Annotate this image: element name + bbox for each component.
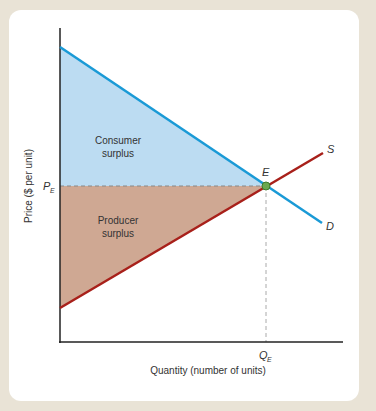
equilibrium-point bbox=[262, 182, 270, 190]
svg-text:E: E bbox=[267, 356, 272, 363]
supply-demand-chart: E S D Consumer surplus Producer surplus … bbox=[0, 0, 376, 411]
svg-text:E: E bbox=[50, 187, 55, 194]
qe-tick-label: Q E bbox=[259, 349, 272, 363]
demand-label: D bbox=[326, 220, 334, 232]
y-axis-title: Price ($ per unit) bbox=[23, 149, 34, 223]
supply-label: S bbox=[327, 143, 335, 155]
equilibrium-label: E bbox=[262, 166, 270, 178]
pe-tick-label: P E bbox=[43, 180, 55, 194]
producer-surplus-label-2: surplus bbox=[102, 228, 134, 239]
producer-surplus-label-1: Producer bbox=[98, 215, 139, 226]
consumer-surplus-label-1: Consumer bbox=[95, 135, 142, 146]
x-axis-title: Quantity (number of units) bbox=[150, 365, 266, 376]
consumer-surplus-label-2: surplus bbox=[102, 148, 134, 159]
